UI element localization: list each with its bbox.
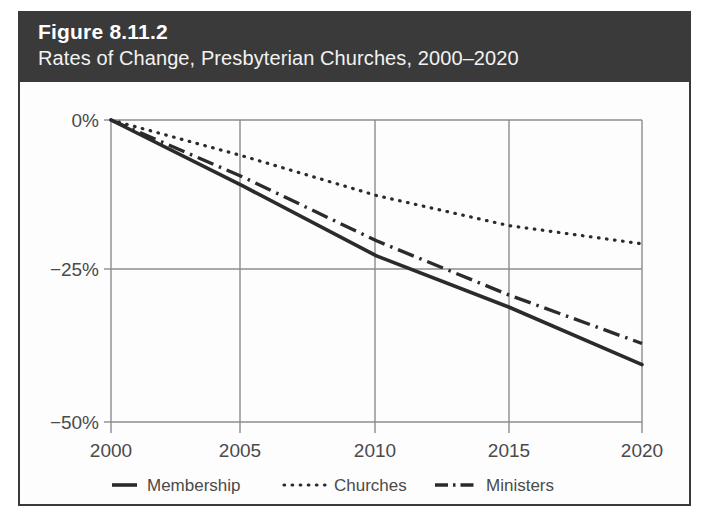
y-tick-label-25: −25% — [50, 259, 99, 280]
chart-plot-region: 0% −25% −50% 2000 2005 2010 2015 2020 — [20, 82, 689, 504]
x-axis-labels: 2000 2005 2010 2015 2020 — [90, 440, 663, 461]
x-tick-label-2020: 2020 — [621, 440, 663, 461]
legend-label-ministers: Ministers — [486, 476, 554, 495]
vertical-gridlines — [111, 120, 642, 422]
figure-number: Figure 8.11.2 — [38, 19, 689, 45]
figure-container: Figure 8.11.2 Rates of Change, Presbyter… — [18, 11, 691, 506]
y-tick-label-50: −50% — [50, 412, 99, 433]
data-series-group — [111, 120, 642, 365]
series-line-ministers — [111, 120, 642, 343]
x-tick-label-2010: 2010 — [354, 440, 396, 461]
y-axis-labels: 0% −25% −50% — [50, 110, 99, 433]
y-tick-label-0: 0% — [72, 110, 100, 131]
tick-marks — [104, 120, 642, 433]
figure-subtitle: Rates of Change, Presbyterian Churches, … — [38, 45, 689, 72]
x-tick-label-2015: 2015 — [488, 440, 530, 461]
horizontal-gridlines — [111, 120, 642, 422]
x-tick-label-2005: 2005 — [219, 440, 261, 461]
series-line-churches — [111, 120, 642, 244]
legend-label-membership: Membership — [147, 476, 241, 495]
legend-label-churches: Churches — [334, 476, 407, 495]
chart-legend: Membership Churches Ministers — [112, 476, 554, 495]
line-chart: 0% −25% −50% 2000 2005 2010 2015 2020 — [20, 82, 689, 504]
figure-header: Figure 8.11.2 Rates of Change, Presbyter… — [20, 13, 689, 82]
x-tick-label-2000: 2000 — [90, 440, 132, 461]
